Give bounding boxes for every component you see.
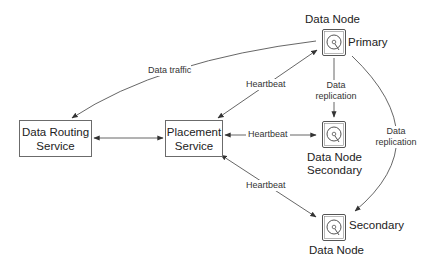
label-replication-bottom-line2: replication bbox=[373, 137, 419, 148]
data-routing-line1: Data Routing bbox=[22, 125, 89, 139]
primary-node-role: Primary bbox=[348, 36, 388, 49]
secondary-mid-node-title: Data Node bbox=[307, 151, 362, 164]
hard-disk-icon[interactable] bbox=[322, 29, 346, 56]
placement-service-box[interactable]: Placement Service bbox=[165, 120, 223, 157]
label-replication-mid-line1: Data bbox=[313, 80, 359, 91]
hard-disk-icon[interactable] bbox=[322, 121, 346, 148]
label-replication-bottom: Data replication bbox=[373, 126, 419, 148]
label-replication-mid-line2: replication bbox=[313, 91, 359, 102]
placement-line1: Placement bbox=[167, 125, 221, 139]
secondary-bottom-node-role: Secondary bbox=[349, 219, 404, 232]
label-data-traffic: Data traffic bbox=[148, 65, 191, 76]
data-routing-line2: Service bbox=[22, 139, 89, 153]
label-replication-bottom-line1: Data bbox=[373, 126, 419, 137]
label-replication-mid: Data replication bbox=[313, 80, 359, 102]
label-heartbeat-secondary-mid: Heartbeat bbox=[246, 129, 290, 140]
label-heartbeat-primary: Heartbeat bbox=[246, 79, 286, 90]
placement-line2: Service bbox=[167, 139, 221, 153]
hard-disk-icon[interactable] bbox=[322, 214, 346, 241]
label-heartbeat-secondary-bottom: Heartbeat bbox=[246, 180, 286, 191]
secondary-mid-node-role: Secondary bbox=[307, 164, 362, 177]
data-routing-service-box[interactable]: Data Routing Service bbox=[19, 120, 92, 157]
primary-node-title: Data Node bbox=[305, 13, 360, 26]
secondary-bottom-node-title: Data Node bbox=[309, 244, 364, 257]
